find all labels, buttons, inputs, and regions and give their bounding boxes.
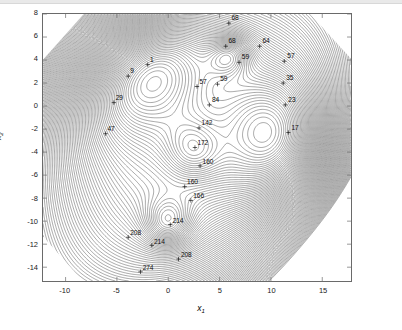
x-axis-title: x1 [0, 303, 402, 314]
figure-canvas: x2 x1 86420-2-4-6-8-10-12-14-10-50510151… [0, 0, 402, 330]
contour-line [77, 14, 321, 255]
plot-area [42, 13, 352, 282]
y-tick-label: 6 [16, 32, 38, 40]
y-tick-label: -4 [16, 148, 38, 156]
window-top-edge [0, 0, 402, 4]
contour-label: 208 [181, 252, 192, 259]
contour-line [134, 64, 199, 151]
contour-label: 142 [202, 120, 213, 127]
x-axis-subscript: 1 [201, 308, 204, 314]
contour-label: 9 [130, 68, 134, 75]
contour-label: 29 [116, 95, 123, 102]
contour-label: 35 [286, 75, 293, 82]
contour-line [103, 36, 300, 233]
contour-label: 23 [288, 97, 295, 104]
contour-label: 59 [242, 54, 249, 61]
x-tick-label: 0 [153, 287, 183, 295]
y-axis-subscript: 2 [0, 132, 4, 135]
contour-label: 17 [291, 125, 298, 132]
x-tick-label: 10 [256, 287, 286, 295]
y-tick-label: -12 [16, 241, 38, 249]
contour-label: 64 [263, 38, 270, 45]
contour-line [83, 17, 316, 249]
y-axis-title-text: x [0, 136, 3, 140]
contour-label-tick [286, 130, 290, 134]
y-tick-label: 4 [16, 55, 38, 63]
contour-label: 208 [130, 230, 141, 237]
contour-label: 166 [193, 193, 204, 200]
contour-label-tick [215, 82, 219, 86]
y-tick-label: -14 [16, 264, 38, 272]
contour-label: 1 [150, 57, 154, 64]
contour-plot-svg [43, 14, 351, 281]
x-tick-label: -5 [101, 287, 131, 295]
contour-line [114, 46, 291, 174]
contour-label: 59 [220, 76, 227, 83]
contour-label: 160 [187, 179, 198, 186]
contour-label: 57 [200, 79, 207, 86]
contour-label-tick [227, 21, 231, 25]
y-tick-label: 2 [16, 79, 38, 87]
contour-line [147, 77, 162, 92]
contour-label: 214 [173, 218, 184, 225]
y-tick-label: 8 [16, 9, 38, 17]
contour-label: 214 [154, 239, 165, 246]
contour-label-tick [282, 59, 286, 63]
contour-label-tick [237, 60, 241, 64]
contour-label-tick [207, 103, 211, 107]
y-tick-label: -8 [16, 195, 38, 203]
y-tick-label: 0 [16, 102, 38, 110]
contour-label: 160 [203, 159, 214, 166]
x-tick-label: -10 [50, 287, 80, 295]
contour-line [141, 71, 168, 98]
contour-line [122, 53, 284, 166]
y-axis-title: x2 [0, 132, 4, 140]
contour-label: 84 [212, 97, 219, 104]
y-tick-label: -2 [16, 125, 38, 133]
contour-label: 172 [197, 140, 208, 147]
contour-label: 274 [143, 265, 154, 272]
x-tick-label: 5 [205, 287, 235, 295]
y-tick-label: -6 [16, 171, 38, 179]
x-tick-label: 15 [308, 287, 338, 295]
contour-label: 47 [108, 126, 115, 133]
contour-label: 57 [287, 53, 294, 60]
contour-label: 68 [228, 38, 235, 45]
y-tick-label: -10 [16, 218, 38, 226]
contour-label: 68 [232, 15, 239, 22]
